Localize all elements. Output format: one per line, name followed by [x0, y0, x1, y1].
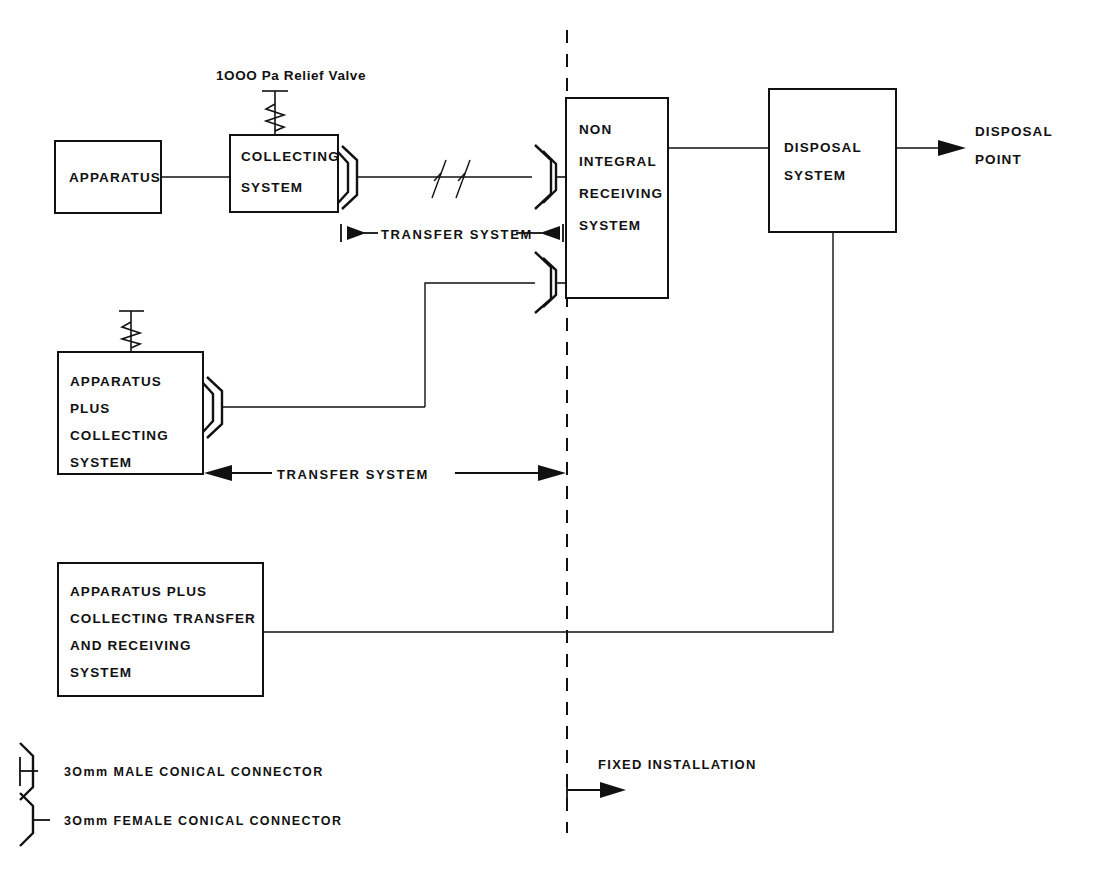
wire-disposal-to-bottom-box — [263, 232, 833, 632]
hose-break-icon — [415, 160, 532, 198]
disposal-point-label-line1: DISPOSAL — [975, 124, 1053, 139]
scavenging-system-diagram: 1OOO Pa Relief Valve APPARATUS COLLECTIN… — [0, 0, 1094, 873]
apc-label-line4: SYSTEM — [70, 455, 132, 470]
receiving-system-label-line2: INTEGRAL — [579, 154, 657, 169]
collecting-system-box — [230, 135, 338, 212]
apctr-label-line3: AND RECEIVING — [70, 638, 192, 653]
legend-female-connector-label: 3Omm FEMALE CONICAL CONNECTOR — [64, 814, 342, 828]
relief-valve-label: 1OOO Pa Relief Valve — [216, 68, 366, 83]
fixed-installation-arrow — [567, 780, 626, 800]
wire-apc-to-receiving — [425, 283, 535, 407]
apc-label-line3: COLLECTING — [70, 428, 169, 443]
collecting-system-label-line1: COLLECTING — [241, 149, 340, 164]
disposal-system-box — [769, 89, 896, 232]
receiving-system-label-line4: SYSTEM — [579, 218, 641, 233]
legend-male-connector-label: 3Omm MALE CONICAL CONNECTOR — [64, 765, 324, 779]
fixed-installation-label: FIXED INSTALLATION — [598, 757, 757, 772]
transfer-system-label-upper: TRANSFER SYSTEM — [381, 227, 533, 242]
connector-receiving-upper — [535, 145, 566, 209]
apctr-label-line1: APPARATUS PLUS — [70, 584, 207, 599]
receiving-system-label-line1: NON — [579, 122, 612, 137]
collecting-system-label-line2: SYSTEM — [241, 180, 303, 195]
apc-label-line1: APPARATUS — [70, 374, 162, 389]
apctr-label-line2: COLLECTING TRANSFER — [70, 611, 256, 626]
female-conical-connector-icon — [20, 793, 50, 846]
relief-valve-icon — [262, 91, 288, 135]
disposal-point-label-line2: POINT — [975, 152, 1022, 167]
connector-receiving-lower — [535, 252, 566, 313]
apctr-label-line4: SYSTEM — [70, 665, 132, 680]
arrow-to-disposal-point — [896, 140, 966, 156]
connector-pair-collecting-outlet — [338, 146, 415, 209]
receiving-system-label-line3: RECEIVING — [579, 186, 663, 201]
disposal-system-label-line1: DISPOSAL — [784, 140, 862, 155]
apparatus-box-label: APPARATUS — [69, 170, 161, 185]
connector-pair-apc-outlet — [203, 377, 425, 438]
male-conical-connector-icon — [20, 743, 38, 800]
transfer-system-label-lower: TRANSFER SYSTEM — [277, 467, 429, 482]
disposal-system-label-line2: SYSTEM — [784, 168, 846, 183]
relief-valve-icon-2 — [119, 311, 144, 352]
diagram-canvas: 1OOO Pa Relief Valve APPARATUS COLLECTIN… — [0, 0, 1094, 873]
apc-label-line2: PLUS — [70, 401, 110, 416]
